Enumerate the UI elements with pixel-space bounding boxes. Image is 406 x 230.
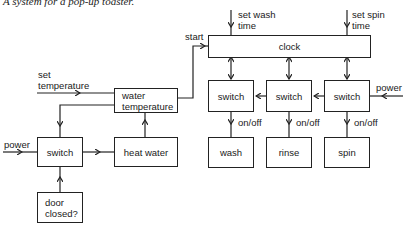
arrow-start [178, 46, 205, 98]
label-line: set wash [238, 10, 276, 21]
label-line: temperature [38, 81, 89, 92]
block-switch-spin: switch [324, 80, 370, 112]
block-text: closed? [45, 208, 78, 219]
label-start: start [185, 32, 203, 43]
block-heat-water: heat water [114, 137, 178, 167]
label-line: set spin [352, 10, 385, 21]
block-text: temperature [122, 101, 173, 112]
label-on-off-rinse: on/off [296, 118, 320, 129]
label-line: set [38, 70, 89, 81]
block-switch-wash: switch [208, 80, 254, 112]
block-rinse: rinse [266, 137, 312, 168]
label-power-left: power [4, 140, 30, 151]
arrow-feedback [60, 105, 114, 126]
block-text: door [45, 197, 78, 208]
block-spin: spin [324, 137, 370, 168]
label-line: time [238, 21, 276, 32]
block-water-temperature: water temperature [114, 88, 178, 113]
block-clock: clock [208, 35, 371, 58]
block-text: water [122, 90, 173, 101]
block-switch-power: switch [37, 137, 83, 167]
label-on-off-spin: on/off [354, 118, 378, 129]
block-wash: wash [208, 137, 254, 168]
label-set-spin-time: set spin time [352, 10, 385, 31]
label-on-off-wash: on/off [238, 118, 262, 129]
label-line: time [352, 21, 385, 32]
label-set-temperature: set temperature [38, 70, 89, 91]
label-set-wash-time: set wash time [238, 10, 276, 31]
block-door-closed: door closed? [37, 192, 83, 223]
block-switch-rinse: switch [266, 80, 312, 112]
label-power-right: power [376, 83, 402, 94]
